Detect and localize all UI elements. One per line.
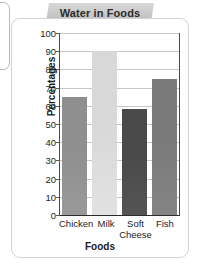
bar-fish <box>152 79 177 216</box>
x-axis-tick-label-line: Soft <box>119 218 152 229</box>
plot-area <box>59 33 180 216</box>
x-axis-title: Foods <box>12 241 188 252</box>
y-axis-tick-label: 100 <box>40 28 56 39</box>
y-axis-tick-label: 20 <box>45 173 56 184</box>
x-axis-tick-label: Fish <box>152 218 178 240</box>
y-axis-tick-label: 80 <box>45 64 56 75</box>
x-axis-tick-label-line: Chicken <box>59 218 93 229</box>
bar-series <box>60 33 179 215</box>
bar-milk <box>92 51 117 215</box>
x-axis-tick-label: Chicken <box>59 218 93 240</box>
y-axis-tick-label: 40 <box>45 137 56 148</box>
page-edge-artifact <box>0 2 10 70</box>
y-axis-tickmark <box>56 215 60 216</box>
y-axis-tick-label: 30 <box>45 155 56 166</box>
x-axis-tick-labels: ChickenMilkSoftCheeseFish <box>59 218 178 240</box>
chart-card: Percentages 1009080706050403020100 Chick… <box>11 18 189 258</box>
x-axis-tick-label: SoftCheese <box>119 218 152 240</box>
y-axis-tick-label: 50 <box>45 119 56 130</box>
y-axis-tick-label: 60 <box>45 100 56 111</box>
y-axis-tick-label: 90 <box>45 46 56 57</box>
y-axis-tick-labels: 1009080706050403020100 <box>30 33 56 215</box>
y-axis-tick-label: 70 <box>45 82 56 93</box>
chart-title: Water in Foods <box>60 7 140 19</box>
x-axis-tick-label-line: Cheese <box>119 229 152 240</box>
x-axis-tick-label-line: Milk <box>93 218 119 229</box>
x-axis-tick-label: Milk <box>93 218 119 240</box>
x-axis-tick-label-line: Fish <box>152 218 178 229</box>
bar-chicken <box>62 97 87 215</box>
bar-soft-cheese <box>122 109 147 215</box>
y-axis-tick-label: 10 <box>45 191 56 202</box>
